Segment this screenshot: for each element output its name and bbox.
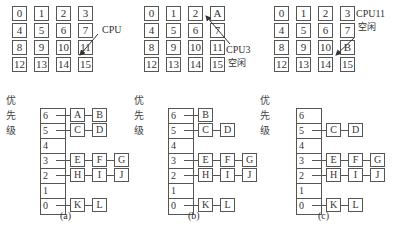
arrow-icon: [80, 34, 98, 55]
arrow-icon: [336, 38, 354, 55]
arrows-layer: [0, 0, 407, 232]
arrow-icon: [206, 16, 230, 44]
